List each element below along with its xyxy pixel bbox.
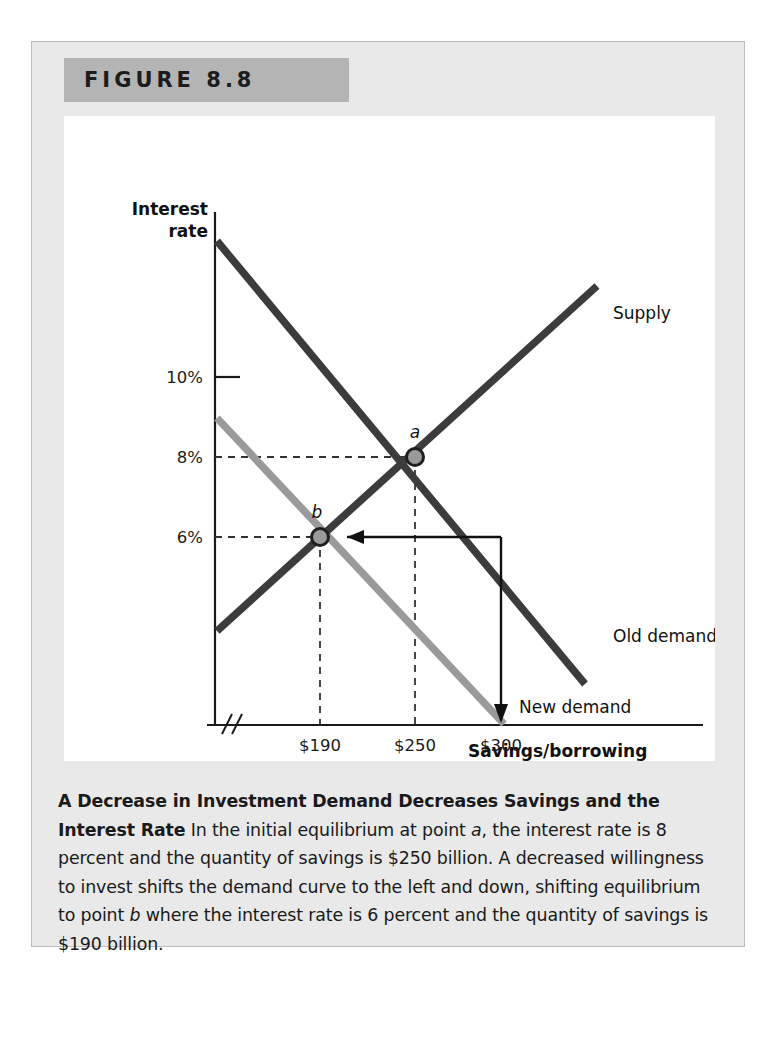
y-tick-label-10: 10% bbox=[166, 368, 203, 387]
new-demand-curve bbox=[217, 418, 504, 724]
equilibrium-point-b bbox=[312, 529, 329, 546]
chart-card: Interest rate Savings/borrowing (in bill… bbox=[64, 116, 715, 761]
figure-caption: A Decrease in Investment Demand Decrease… bbox=[58, 787, 718, 958]
y-axis-title-line2: rate bbox=[168, 221, 208, 241]
x-tick-label-300: $300 bbox=[480, 736, 522, 755]
equilibrium-point-b-label: b bbox=[312, 502, 323, 522]
caption-point-a-reference: a bbox=[471, 820, 482, 840]
supply-curve-label: Supply bbox=[613, 303, 671, 323]
figure-header-bar: FIGURE 8.8 bbox=[64, 58, 349, 102]
y-tick-label-8: 8% bbox=[177, 448, 203, 467]
old-demand-curve-label: Old demand bbox=[613, 626, 715, 646]
figure-panel: FIGURE 8.8 Interest rate Savings/borrowi… bbox=[31, 41, 745, 947]
shift-arrow-horizontal-head bbox=[347, 530, 364, 544]
x-tick-label-190: $190 bbox=[299, 736, 341, 755]
new-demand-curve-label: New demand bbox=[519, 697, 631, 717]
figure-number-label: FIGURE 8.8 bbox=[84, 68, 255, 92]
equilibrium-point-a-label: a bbox=[410, 422, 420, 442]
supply-demand-chart: Interest rate Savings/borrowing (in bill… bbox=[64, 116, 715, 761]
y-axis-title-line1: Interest bbox=[132, 199, 208, 219]
x-tick-label-250: $250 bbox=[394, 736, 436, 755]
caption-body-part-1: In the initial equilibrium at point bbox=[185, 820, 471, 840]
caption-point-b-reference: b bbox=[130, 905, 141, 925]
y-tick-label-6: 6% bbox=[177, 528, 203, 547]
caption-body-part-3: where the interest rate is 6 percent and… bbox=[58, 905, 708, 954]
equilibrium-point-a bbox=[407, 449, 424, 466]
